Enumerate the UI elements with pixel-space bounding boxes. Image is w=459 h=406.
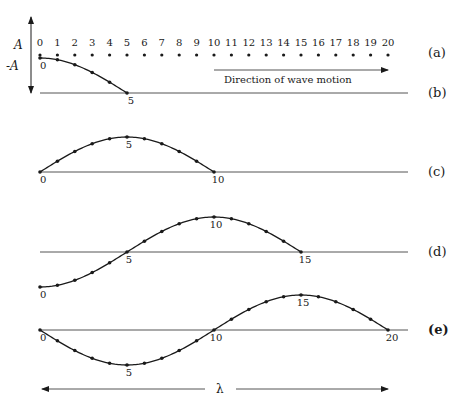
particle-dot — [143, 53, 146, 56]
wave-point — [143, 239, 147, 243]
particle-label: 0 — [37, 37, 43, 48]
wave-point-label: 0 — [40, 174, 46, 185]
particle-label: 1 — [54, 37, 60, 48]
wave-point — [334, 300, 338, 304]
wave-point — [90, 271, 94, 275]
wave-point — [177, 349, 181, 353]
particle-dot — [38, 53, 41, 56]
wave-point — [90, 357, 94, 361]
panel-label-b: (b) — [428, 85, 446, 100]
wave-point-label: 15 — [297, 297, 310, 308]
wave-point — [56, 283, 60, 287]
panel-labels: (a) (b) (c) (d) (e) — [428, 45, 449, 337]
panel-label-e: (e) — [428, 322, 449, 337]
direction-arrow: Direction of wave motion — [214, 70, 388, 85]
panel-label-d: (d) — [428, 244, 446, 259]
particle-label: 4 — [106, 37, 112, 48]
wave-point — [108, 361, 112, 365]
particle-label: 7 — [159, 37, 165, 48]
wave-point-label: 10 — [212, 174, 225, 185]
wave-point — [264, 300, 268, 304]
wave-point — [73, 349, 77, 353]
wave-point — [160, 142, 164, 146]
particle-dot — [386, 53, 389, 56]
wave-point — [73, 63, 77, 67]
particle-label: 18 — [347, 37, 360, 48]
wave-point — [143, 361, 147, 365]
wave-point-label: 5 — [128, 95, 134, 106]
wave-point-label: 0 — [40, 332, 46, 343]
particle-dot — [91, 53, 94, 56]
wave-diagram: A -A 01234567891011121314151617181920 Di… — [0, 0, 459, 406]
particle-label: 16 — [312, 37, 325, 48]
particle-dot — [160, 53, 163, 56]
direction-label: Direction of wave motion — [224, 74, 352, 85]
particle-dot — [125, 53, 128, 56]
wave-point — [160, 230, 164, 234]
amplitude-axis: A -A — [6, 17, 31, 93]
particle-row: 01234567891011121314151617181920 — [37, 37, 395, 57]
wave-point — [160, 357, 164, 361]
particle-dot — [73, 53, 76, 56]
particle-dot — [299, 53, 302, 56]
wave-point — [195, 159, 199, 163]
wave-point — [108, 137, 112, 141]
wave-point-label: 5 — [126, 139, 132, 150]
particle-label: 5 — [124, 37, 130, 48]
wave-point — [90, 71, 94, 75]
wave-point — [177, 222, 181, 226]
particle-label: 19 — [364, 37, 377, 48]
wave-point — [282, 295, 286, 299]
wave-panel-c: 0510 — [38, 135, 224, 185]
particle-dot — [265, 53, 268, 56]
particle-label: 17 — [329, 37, 342, 48]
particle-dot — [56, 53, 59, 56]
particle-dot — [334, 53, 337, 56]
particle-dot — [212, 53, 215, 56]
particle-dot — [195, 53, 198, 56]
particle-label: 12 — [242, 37, 255, 48]
wave-point-label: 5 — [126, 367, 132, 378]
wave-point — [230, 317, 234, 321]
wave-point — [56, 58, 60, 62]
wave-point — [195, 339, 199, 343]
wave-point — [73, 279, 77, 283]
particle-dot — [108, 53, 111, 56]
wave-point — [264, 230, 268, 234]
wave-panel-d: 051015 — [38, 215, 311, 300]
wave-point — [282, 239, 286, 243]
wave-point — [108, 261, 112, 265]
particle-dot — [178, 53, 181, 56]
wave-panel-e: 05101520 — [38, 293, 398, 378]
wave-point — [108, 80, 112, 84]
wave-point-label: 10 — [210, 219, 223, 230]
wave-point-label: 20 — [386, 332, 399, 343]
wave-point-label: 10 — [210, 332, 223, 343]
wave-point — [90, 142, 94, 146]
particle-dot — [317, 53, 320, 56]
particle-dot — [352, 53, 355, 56]
panel-label-a: (a) — [428, 45, 446, 60]
particle-label: 3 — [89, 37, 95, 48]
panel-label-c: (c) — [428, 164, 445, 179]
particle-label: 8 — [176, 37, 182, 48]
particle-dot — [282, 53, 285, 56]
wave-point-label: 5 — [126, 254, 132, 265]
baselines — [40, 93, 408, 330]
wave-point — [230, 217, 234, 221]
wave-point — [143, 137, 147, 141]
particle-dot — [369, 53, 372, 56]
wave-point — [73, 150, 77, 154]
wavelength-label: λ — [216, 382, 224, 396]
amplitude-label: A — [13, 38, 23, 52]
particle-dot — [230, 53, 233, 56]
wave-point — [177, 150, 181, 154]
wave-point — [317, 295, 321, 299]
wave-point — [369, 317, 373, 321]
wave-point — [56, 159, 60, 163]
wave-panel-b: 05 — [38, 56, 134, 106]
particle-label: 15 — [295, 37, 308, 48]
wave-point-label: 15 — [299, 254, 312, 265]
wavelength-arrow: λ — [42, 382, 388, 396]
particle-label: 10 — [208, 37, 221, 48]
